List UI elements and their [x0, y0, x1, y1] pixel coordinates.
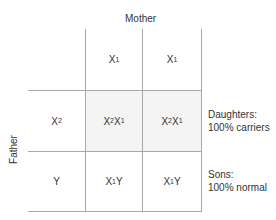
sons-note-value: 100% normal [208, 181, 267, 194]
offspring-cell-2-2: X1Y [143, 152, 201, 211]
father-label: Father [8, 133, 19, 167]
offspring-cell-1-2: X2X1 [143, 91, 201, 151]
sons-note: Sons: 100% normal [208, 168, 267, 194]
mother-allele-1: X1 [86, 29, 142, 90]
daughters-note-title: Daughters: [208, 108, 270, 121]
grid-line-v3 [201, 29, 202, 212]
mother-label: Mother [125, 13, 156, 24]
daughters-note: Daughters: 100% carriers [208, 108, 270, 134]
father-allele-1: X2 [28, 91, 85, 151]
offspring-cell-1-1: X2X1 [86, 91, 142, 151]
daughters-note-value: 100% carriers [208, 121, 270, 134]
mother-allele-2: X1 [143, 29, 201, 90]
grid-line-h3 [28, 211, 202, 212]
father-allele-2: Y [28, 152, 85, 211]
sons-note-title: Sons: [208, 168, 267, 181]
offspring-cell-2-1: X1Y [86, 152, 142, 211]
